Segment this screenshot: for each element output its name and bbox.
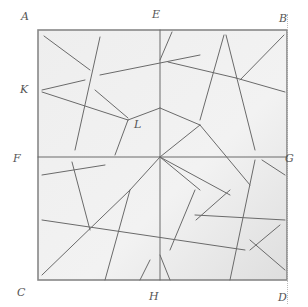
point-label-l: L [134,118,141,131]
point-label-b: B [279,12,287,25]
point-label-d: D [278,291,287,304]
point-label-c: C [17,286,25,299]
point-label-e: E [152,8,160,21]
geometric-diagram [0,0,308,307]
point-label-a: A [21,10,29,23]
point-label-k: K [20,83,28,96]
point-label-g: G [285,152,294,165]
point-label-h: H [149,290,159,303]
diagram-figure [0,0,308,307]
point-label-f: F [13,152,21,165]
